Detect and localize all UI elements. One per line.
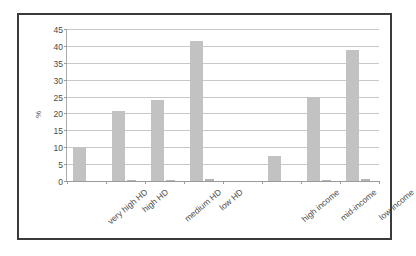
bar-group	[262, 29, 301, 181]
x-axis-label: low HD	[217, 187, 244, 212]
bar-group	[184, 29, 223, 181]
bar	[166, 180, 175, 181]
plot-wrapper: % 051015202530354045 very high HDhigh HD…	[19, 15, 390, 238]
x-axis-label: low income	[377, 187, 416, 222]
chart-frame: % 051015202530354045 very high HDhigh HD…	[17, 13, 392, 240]
y-tick-label: 40	[54, 42, 63, 52]
bar-group	[145, 29, 184, 181]
bar	[127, 180, 136, 181]
x-tick-mark	[379, 181, 380, 184]
plot-area: 051015202530354045	[66, 30, 378, 182]
bar-group	[340, 29, 379, 181]
bar	[112, 111, 125, 181]
x-tick-mark	[223, 181, 224, 184]
y-tick-label: 30	[54, 76, 63, 86]
x-tick-mark	[340, 181, 341, 184]
bar-group	[301, 29, 340, 181]
bar	[361, 179, 370, 181]
bar	[322, 180, 331, 181]
x-tick-mark	[301, 181, 302, 184]
x-tick-mark	[106, 181, 107, 184]
y-tick-label: 25	[54, 93, 63, 103]
x-axis-label: mid-income	[338, 187, 378, 223]
bar	[73, 147, 86, 181]
y-tick-label: 10	[54, 143, 63, 153]
y-tick-label: 15	[54, 126, 63, 136]
bar	[268, 156, 281, 181]
y-tick-label: 20	[54, 109, 63, 119]
bar	[307, 97, 320, 181]
x-tick-mark	[262, 181, 263, 184]
y-tick-label: 35	[54, 59, 63, 69]
x-tick-mark	[184, 181, 185, 184]
bar-group	[106, 29, 145, 181]
y-tick-label: 45	[54, 25, 63, 35]
x-tick-mark	[145, 181, 146, 184]
y-axis-title: %	[34, 106, 43, 124]
bar	[205, 179, 214, 181]
bar-group	[223, 29, 262, 181]
x-tick-mark	[67, 181, 68, 184]
y-tick-label: 5	[58, 160, 63, 170]
bar-group	[67, 29, 106, 181]
x-axis-label: high income	[300, 187, 342, 224]
bar	[151, 100, 164, 181]
bar	[346, 50, 359, 181]
bar	[190, 41, 203, 181]
y-tick-label: 0	[58, 177, 63, 187]
